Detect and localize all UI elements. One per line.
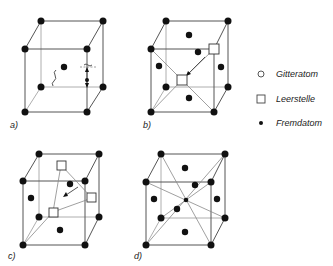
arrow-head-icon	[85, 67, 89, 72]
panel-b: b)	[143, 18, 232, 131]
vacancy-site	[49, 208, 58, 217]
legend-label-lattice-atom: Gitteratom	[276, 69, 319, 79]
legend-label-vacancy: Leerstelle	[276, 94, 315, 104]
interstitial-atom	[85, 78, 89, 82]
panel-a: a)	[10, 18, 107, 131]
diffusion-mechanisms-diagram: a)	[0, 0, 333, 266]
center-atom	[184, 198, 189, 203]
vacancy-site	[87, 193, 96, 202]
panel-d: d)	[134, 151, 229, 262]
vacancy-site	[177, 75, 187, 85]
panel-label-c: c)	[8, 251, 16, 261]
vacancy-symbol-icon	[257, 95, 265, 103]
jump-arrow-icon	[188, 57, 205, 74]
jump-arrow-icon	[66, 187, 78, 195]
panel-label-b: b)	[143, 120, 151, 130]
foreign-atom-symbol-icon	[259, 121, 263, 125]
panel-c: c)	[8, 151, 103, 262]
legend: Gitteratom Leerstelle Fremdatom	[257, 69, 323, 128]
arrow-head-icon	[63, 192, 68, 197]
panel-label-a: a)	[10, 120, 18, 130]
vacancy-site	[57, 161, 66, 170]
jump-wave-icon	[52, 70, 56, 86]
vacancy-site	[209, 44, 219, 54]
center-atom	[61, 64, 67, 70]
legend-label-foreign-atom: Fremdatom	[276, 118, 323, 128]
lattice-atom-symbol-icon	[258, 71, 264, 77]
jump-wave-icon	[84, 64, 92, 66]
panel-label-d: d)	[134, 251, 142, 261]
